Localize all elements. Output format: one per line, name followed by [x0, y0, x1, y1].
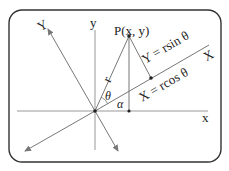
rotated-y-axis-label: Y: [35, 16, 51, 34]
point-p-label: P(x, y): [114, 23, 149, 38]
rotation-diagram: P(x, y) y x Y X r θ α Y = rsin θ X = rco…: [0, 0, 229, 171]
rotated-y-axis: [48, 29, 95, 111]
rotated-x-axis-negative: [25, 111, 95, 151]
origin-point: [93, 109, 97, 113]
theta-label: θ: [105, 89, 111, 103]
radius-label: r: [99, 74, 115, 85]
x-axis-label: x: [202, 110, 209, 125]
rotated-x-axis-label: X: [201, 46, 217, 64]
x-formula-label: X = rcos θ: [136, 64, 191, 104]
rotated-y-axis-negative: [95, 111, 118, 151]
y-axis-label: y: [90, 15, 97, 30]
foot-xaxis-point: [127, 109, 130, 112]
alpha-label: α: [117, 97, 124, 111]
foot-x-point: [149, 76, 153, 80]
radius-line: [95, 36, 129, 111]
